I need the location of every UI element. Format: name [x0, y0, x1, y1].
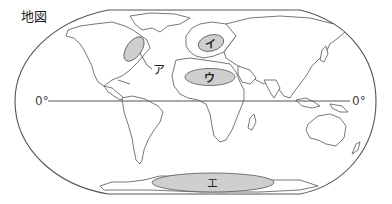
- map-canvas: 0° 0° ア イ ウ エ: [0, 0, 392, 204]
- equator-label-right: 0°: [352, 94, 366, 108]
- landmass-caribbean: [118, 80, 130, 84]
- landmass-arctic: [130, 13, 190, 32]
- landmass-india: [264, 80, 280, 98]
- landmass-new-zealand: [352, 142, 360, 154]
- region-e[interactable]: エ: [152, 173, 274, 192]
- landmass-southeast-asia: [296, 98, 320, 108]
- region-i-label: イ: [205, 38, 216, 51]
- landmass-south-america: [122, 96, 163, 164]
- region-e-label: エ: [207, 177, 218, 190]
- equator-label-left: 0°: [35, 94, 49, 108]
- landmass-australia: [306, 114, 346, 146]
- region-a-leader-line: [140, 53, 152, 69]
- landmass-madagascar: [248, 114, 256, 130]
- region-a-label: ア: [153, 63, 165, 77]
- region-u[interactable]: ウ: [185, 69, 235, 86]
- landmass-central-america: [104, 86, 124, 100]
- region-u-label: ウ: [204, 72, 215, 85]
- landmass-new-guinea: [330, 104, 348, 112]
- world-map: 地図: [0, 0, 392, 204]
